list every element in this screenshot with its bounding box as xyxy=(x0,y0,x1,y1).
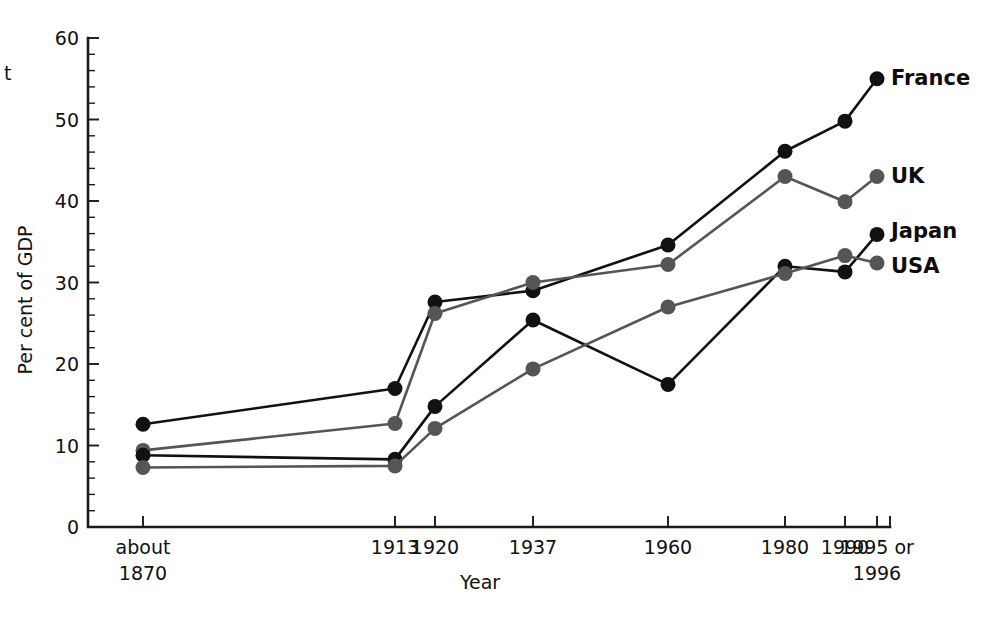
y-tick-label: 0 xyxy=(67,516,79,538)
y-tick-label: 60 xyxy=(55,27,79,49)
x-tick-label-line2: 1996 xyxy=(853,562,901,584)
data-point-france xyxy=(388,381,403,396)
data-series-group xyxy=(136,71,885,475)
x-axis-title: Year xyxy=(459,571,500,593)
y-tick-label: 30 xyxy=(55,272,79,294)
chart-figure: 0102030405060 about187019131920193719601… xyxy=(0,0,999,631)
x-tick-label: 1980 xyxy=(761,536,809,558)
series-label-france: France xyxy=(891,66,970,90)
data-point-usa xyxy=(428,421,443,436)
data-point-uk xyxy=(661,257,676,272)
data-point-usa xyxy=(870,255,885,270)
data-point-japan xyxy=(526,312,541,327)
y-tick-label: 40 xyxy=(55,190,79,212)
data-point-france xyxy=(838,114,853,129)
x-tick-label: 1920 xyxy=(411,536,459,558)
x-tick-label: 1960 xyxy=(644,536,692,558)
data-point-japan xyxy=(870,227,885,242)
data-point-uk xyxy=(838,194,853,209)
y-tick-label: 20 xyxy=(55,353,79,375)
data-point-japan xyxy=(661,377,676,392)
data-point-france xyxy=(870,71,885,86)
x-tick-label: about xyxy=(116,536,171,558)
data-point-japan xyxy=(428,399,443,414)
series-line-japan xyxy=(143,234,877,459)
data-point-uk xyxy=(778,169,793,184)
data-point-france xyxy=(778,144,793,159)
x-axis-tick-labels: about18701913192019371960198019901995 or… xyxy=(116,536,915,584)
data-point-uk xyxy=(388,416,403,431)
data-point-france xyxy=(661,238,676,253)
series-label-japan: Japan xyxy=(889,219,957,243)
data-point-usa xyxy=(838,248,853,263)
data-point-usa xyxy=(136,460,151,475)
series-label-usa: USA xyxy=(891,254,940,278)
x-tick-label-line2: 1870 xyxy=(119,562,167,584)
data-point-uk xyxy=(870,169,885,184)
line-chart-canvas: 0102030405060 about187019131920193719601… xyxy=(0,0,999,631)
y-tick-label: 10 xyxy=(55,435,79,457)
series-line-usa xyxy=(143,256,877,468)
series-label-uk: UK xyxy=(891,164,925,188)
y-axis-title: Per cent of GDP xyxy=(14,225,36,374)
data-point-uk xyxy=(526,275,541,290)
data-point-usa xyxy=(778,266,793,281)
data-point-japan xyxy=(838,264,853,279)
series-line-france xyxy=(143,79,877,425)
data-point-usa xyxy=(388,458,403,473)
series-labels-group: FranceUKJapanUSA xyxy=(889,66,970,278)
x-tick-label: 1995 or xyxy=(840,536,914,558)
data-point-uk xyxy=(428,306,443,321)
data-point-usa xyxy=(526,361,541,376)
stray-margin-text: t xyxy=(4,62,11,84)
axis-titles-group: Per cent of GDPYeart xyxy=(4,62,500,593)
data-point-france xyxy=(136,417,151,432)
y-tick-label: 50 xyxy=(55,109,79,131)
x-tick-label: 1937 xyxy=(509,536,557,558)
data-point-usa xyxy=(661,299,676,314)
y-axis-tick-labels: 0102030405060 xyxy=(55,27,79,538)
